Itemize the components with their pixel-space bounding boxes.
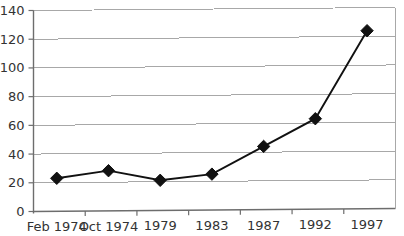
chart-plot-area: 020406080100120140 Feb 1974Oct 197419791… [0,0,404,236]
gridline [34,122,396,125]
y-axis-tick-label: 20 [8,175,25,190]
x-axis-tick-labels-group: Feb 1974Oct 197419791983198719921997 [27,217,384,235]
x-axis-tick-label: Oct 1974 [79,219,139,234]
gridline [34,8,396,11]
gridline [34,94,396,97]
y-axis-tick-labels-group: 020406080100120140 [0,3,25,219]
x-axis-line [34,209,396,212]
x-axis-tick-label: 1997 [351,217,384,232]
y-axis-tick-label: 40 [8,147,25,162]
y-axis-tick-label: 100 [0,60,25,75]
data-point-marker [361,25,373,37]
y-axis-tick-label: 60 [8,118,25,133]
y-axis-tick-label: 80 [8,89,25,104]
x-axis-tick-label: 1992 [299,217,332,232]
gridline [34,36,396,39]
gridline [34,180,396,183]
gridline [34,65,396,68]
data-point-marker [206,168,218,180]
data-point-marker [154,174,166,186]
x-axis-tick-label: 1987 [247,218,280,233]
data-series-line [57,31,367,181]
x-axis-tick-label: 1979 [144,218,177,233]
line-chart-figure: 020406080100120140 Feb 1974Oct 197419791… [0,0,404,236]
y-axis-tick-label: 120 [0,32,25,47]
data-point-marker [102,164,114,176]
gridlines-group [34,8,396,183]
y-tick-marks-group [29,11,34,212]
y-axis-tick-label: 140 [0,3,25,18]
data-point-markers-group [51,25,374,187]
y-axis-tick-label: 0 [16,204,24,219]
data-point-marker [257,140,269,152]
gridline [34,151,396,154]
x-axis-tick-label: 1983 [195,218,228,233]
